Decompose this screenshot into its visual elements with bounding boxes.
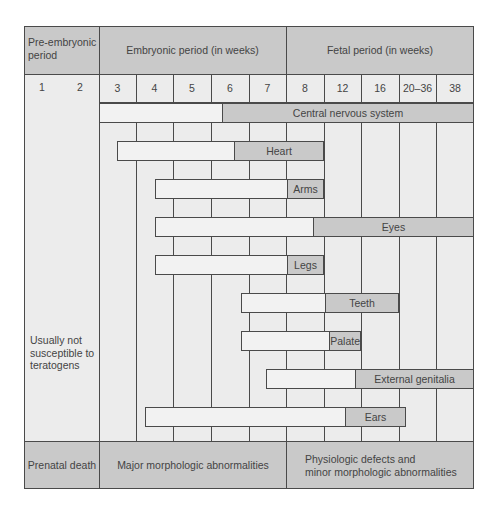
grid-line	[399, 74, 400, 102]
bar-label-eyes: Eyes	[313, 218, 473, 236]
bar-sensitive-segment	[242, 332, 329, 350]
footer-major-abnormalities: Major morphologic abnormalities	[100, 442, 286, 488]
week-38-label: 38	[449, 82, 461, 94]
bar-ears: Ears	[145, 407, 406, 427]
header-pre-embryonic-label: Pre-embryonic period	[28, 36, 96, 61]
table-border-top	[24, 26, 474, 27]
week-12-label: 12	[337, 82, 349, 94]
grid-line	[361, 123, 362, 441]
week-5-cell: 5	[173, 74, 211, 102]
grid-line	[173, 74, 174, 102]
pre-embryonic-column	[24, 74, 99, 441]
header-fetal-label: Fetal period (in weeks)	[327, 44, 433, 56]
table-border-bottom	[24, 488, 474, 489]
bar-sensitive-segment	[118, 142, 234, 160]
footer-minor-label: Physiologic defects and minor morphologi…	[305, 453, 457, 478]
grid-line	[436, 74, 437, 102]
bar-sensitive-segment	[242, 294, 325, 312]
bar-sensitive-segment	[146, 408, 345, 426]
bar-label-heart: Heart	[234, 142, 323, 160]
week-6-label: 6	[227, 82, 233, 94]
week-16-cell: 16	[361, 74, 399, 102]
grid-line	[361, 74, 362, 102]
week-6-cell: 6	[211, 74, 249, 102]
week-7-cell: 7	[249, 74, 286, 102]
bar-external-genitalia: External genitalia	[266, 369, 474, 389]
bar-sensitive-segment	[156, 218, 313, 236]
grid-line	[249, 123, 250, 441]
bar-sensitive-segment	[156, 256, 287, 274]
grid-line	[324, 123, 325, 441]
footer-prenatal-death: Prenatal death	[25, 442, 99, 488]
bar-label-ears: Ears	[345, 408, 405, 426]
pre-embryonic-divider	[99, 26, 100, 489]
table-border-right	[473, 26, 474, 489]
header-embryonic-label: Embryonic period (in weeks)	[126, 44, 258, 56]
week-4-label: 4	[152, 82, 158, 94]
bar-label-legs: Legs	[287, 256, 323, 274]
header-divider	[24, 74, 474, 75]
week-16-label: 16	[374, 82, 386, 94]
grid-line	[399, 123, 400, 441]
grid-line	[173, 123, 174, 441]
bar-arms: Arms	[155, 179, 324, 199]
week-2-label: 2	[77, 81, 83, 94]
grid-line	[136, 123, 137, 441]
footer-prenatal-death-label: Prenatal death	[28, 459, 96, 471]
side-label-not-susceptible: Usually not susceptible to teratogens	[30, 334, 94, 372]
grid-line	[436, 123, 437, 441]
bar-eyes: Eyes	[155, 217, 474, 237]
bar-legs: Legs	[155, 255, 324, 275]
grid-line	[286, 26, 287, 102]
bar-label-palate: Palate	[329, 332, 360, 350]
grid-line	[211, 123, 212, 441]
grid-line	[211, 74, 212, 102]
week-38-cell: 38	[436, 74, 474, 102]
week-4-cell: 4	[136, 74, 173, 102]
week-7-label: 7	[265, 82, 271, 94]
bar-central-nervous-system: Central nervous system	[99, 103, 474, 123]
week-8-label: 8	[302, 82, 308, 94]
bar-heart: Heart	[117, 141, 324, 161]
bar-label-cns: Central nervous system	[222, 104, 473, 122]
table-border-left	[24, 26, 25, 489]
header-fetal-period: Fetal period (in weeks)	[286, 26, 474, 74]
grid-line	[324, 74, 325, 102]
week-1-label: 1	[39, 81, 45, 94]
week-8-cell: 8	[286, 74, 324, 102]
bar-palate: Palate	[241, 331, 361, 351]
week-20-36-cell: 20–36	[399, 74, 436, 102]
grid-line	[136, 74, 137, 102]
bar-sensitive-segment	[100, 104, 222, 122]
footer-major-label: Major morphologic abnormalities	[117, 459, 269, 471]
week-3-label: 3	[115, 82, 121, 94]
week-3-cell: 3	[99, 74, 136, 102]
grid-line	[249, 74, 250, 102]
bar-teeth: Teeth	[241, 293, 399, 313]
header-embryonic-period: Embryonic period (in weeks)	[99, 26, 286, 74]
bar-label-external-genitalia: External genitalia	[355, 370, 473, 388]
bar-sensitive-segment	[156, 180, 287, 198]
bar-label-arms: Arms	[287, 180, 323, 198]
bar-label-teeth: Teeth	[325, 294, 398, 312]
week-20-36-label: 20–36	[403, 82, 432, 94]
week-12-cell: 12	[324, 74, 361, 102]
week-5-label: 5	[189, 82, 195, 94]
bar-sensitive-segment	[267, 370, 355, 388]
